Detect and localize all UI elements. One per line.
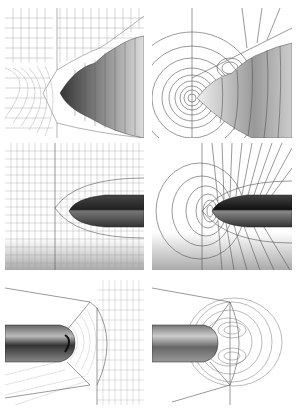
panel-e-mesh [5, 280, 144, 405]
panel-d-contours [152, 143, 292, 270]
mesh-plot [5, 8, 144, 138]
panel-a-mesh [5, 8, 144, 138]
mesh-plot [5, 143, 144, 270]
mesh-plot [5, 280, 144, 405]
contour-plot [152, 8, 292, 138]
contour-plot [152, 280, 292, 405]
panel-f-contours [152, 280, 292, 405]
contour-plot [152, 143, 292, 270]
panel-c-mesh [5, 143, 144, 270]
panel-b-contours [152, 8, 292, 138]
